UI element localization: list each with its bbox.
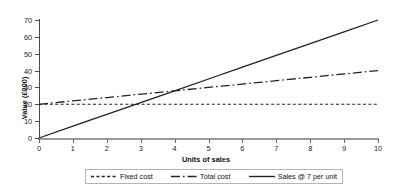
x-tick-label: 3 [139,144,143,153]
x-tick-mark [39,139,40,143]
legend-item[interactable]: Fixed cost [91,172,153,181]
x-tick-mark [107,139,108,143]
plot-area: 010203040506070 012345678910 [39,20,378,138]
x-tick-label: 8 [308,144,312,153]
y-tick-label: 60 [24,32,32,41]
series-line-total-cost [39,71,378,105]
x-tick-mark [276,139,277,143]
legend-label: Total cost [200,172,230,181]
y-tick-label: 70 [24,16,32,25]
x-tick-label: 2 [105,144,109,153]
y-tick-label: 0 [28,134,32,143]
x-tick-mark [209,139,210,143]
series-layer [39,20,378,138]
y-tick-label: 20 [24,100,32,109]
dashed-line-swatch [91,173,117,180]
x-tick-mark [73,139,74,143]
legend-item[interactable]: Sales @ 7 per unit [249,172,337,181]
x-tick-mark [242,139,243,143]
solid-line-swatch [249,173,275,180]
y-tick-label: 50 [24,49,32,58]
x-tick-mark [378,139,379,143]
y-tick-label: 40 [24,66,32,75]
x-tick-label: 10 [374,144,382,153]
x-axis-title: Units of sales [0,155,412,164]
x-tick-label: 0 [37,144,41,153]
legend-label: Sales @ 7 per unit [278,172,337,181]
legend-item[interactable]: Total cost [171,172,230,181]
y-tick-label: 10 [24,117,32,126]
x-tick-label: 7 [274,144,278,153]
dash-dot-line-swatch [171,173,197,180]
series-line-sales-7-per-unit [39,20,378,138]
x-tick-label: 4 [173,144,177,153]
x-tick-mark [141,139,142,143]
x-tick-label: 5 [206,144,210,153]
x-tick-mark [344,139,345,143]
x-tick-mark [310,139,311,143]
chart-container: Value (£000) 010203040506070 01234567891… [0,0,412,195]
x-tick-label: 9 [342,144,346,153]
legend-label: Fixed cost [120,172,153,181]
x-tick-label: 1 [71,144,75,153]
x-tick-label: 6 [240,144,244,153]
chart-legend: Fixed costTotal costSales @ 7 per unit [85,169,343,184]
y-tick-label: 30 [24,83,32,92]
x-tick-mark [175,139,176,143]
